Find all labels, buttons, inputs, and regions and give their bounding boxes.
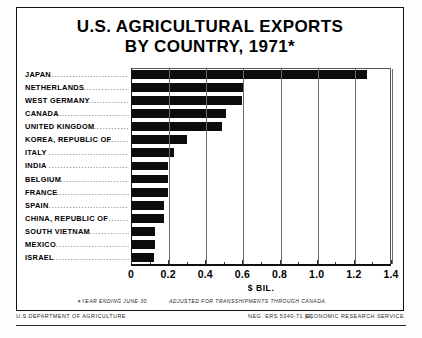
bar-track [131, 225, 391, 238]
bar [131, 109, 226, 118]
leader-dots: ........................................ [49, 199, 129, 212]
bar-row: SOUTH VIETNAM...........................… [17, 225, 403, 238]
x-axis-tick-label: 0.4 [198, 268, 213, 280]
bar-row: MEXICO..................................… [17, 238, 403, 251]
bar-track [131, 238, 391, 251]
bar-track [131, 199, 391, 212]
bar-track [131, 173, 391, 186]
leader-dots: ........................................ [49, 146, 129, 159]
bar-row: WEST GERMANY............................… [17, 94, 403, 107]
bar-row: CANADA..................................… [17, 107, 403, 120]
x-axis-minor-tick [261, 262, 262, 265]
bar-track [131, 212, 391, 225]
sheet-baseline-rule [16, 325, 406, 326]
bar-row: SPAIN...................................… [17, 199, 403, 212]
bar [131, 253, 154, 262]
leader-dots: ........................................ [53, 251, 129, 264]
bar-track [131, 94, 391, 107]
x-axis-tick [391, 260, 392, 264]
leader-dots: ........................................ [53, 238, 129, 251]
bar [131, 201, 164, 210]
leader-dots: ........................................ [49, 68, 129, 81]
credit-service: ECONOMIC RESEARCH SERVICE [305, 313, 404, 319]
x-axis-tick-label: 0.2 [161, 268, 176, 280]
leader-dots: ........................................ [57, 173, 129, 186]
footnote-2: ADJUSTED FOR TRANSSHIPMENTS THROUGH CANA… [169, 298, 327, 304]
bar [131, 83, 244, 92]
credit-negative-number: NEG. ERS 5340-71 (9) [248, 313, 313, 319]
x-axis-minor-tick [298, 262, 299, 265]
leader-dots: ........................................ [75, 81, 129, 94]
bar-row: KOREA, REPUBLIC OF......................… [17, 133, 403, 146]
bar-row: FRANCE..................................… [17, 186, 403, 199]
bar-track [131, 159, 391, 172]
bar-track [131, 133, 391, 146]
x-axis-minor-tick [335, 262, 336, 265]
x-axis-minor-tick [372, 262, 373, 265]
x-axis-minor-tick [187, 262, 188, 265]
leader-dots: ........................................ [53, 186, 129, 199]
leader-dots: ........................................ [88, 120, 129, 133]
x-axis-minor-tick [150, 262, 151, 265]
bar-row: INDIA...................................… [17, 159, 403, 172]
bar-row: UNITED KINGDOM..........................… [17, 120, 403, 133]
x-axis-tick [168, 260, 169, 264]
bar-track [131, 81, 391, 94]
page-title: U.S. AGRICULTURAL EXPORTS BY COUNTRY, 19… [17, 17, 403, 56]
leader-dots: ........................................ [79, 94, 129, 107]
title-line-1: U.S. AGRICULTURAL EXPORTS [77, 17, 344, 36]
bar [131, 70, 367, 79]
bar-track [131, 186, 391, 199]
leader-dots: ........................................ [105, 133, 129, 146]
bar [131, 175, 168, 184]
bar-track [131, 107, 391, 120]
bar [131, 240, 155, 249]
x-axis-tick-label: 1.4 [383, 268, 398, 280]
footnote-1: ✶YEAR ENDING JUNE 30. [77, 298, 149, 304]
chart-panel: U.S. AGRICULTURAL EXPORTS BY COUNTRY, 19… [16, 7, 404, 311]
chart-sheet: U.S. AGRICULTURAL EXPORTS BY COUNTRY, 19… [0, 0, 422, 338]
bar [131, 162, 168, 171]
x-axis-tick-label: 0 [128, 268, 134, 280]
x-axis-tick-label: 0.6 [235, 268, 250, 280]
bar [131, 148, 174, 157]
x-axis-tick [354, 260, 355, 264]
bar-row: NETHERLANDS.............................… [17, 81, 403, 94]
leader-dots: ........................................ [105, 212, 129, 225]
credit-agency: U.S.DEPARTMENT OF AGRICULTURE [16, 313, 126, 319]
bar-track [131, 146, 391, 159]
x-axis-tick [205, 260, 206, 264]
x-axis-tick-label: 0.8 [272, 268, 287, 280]
bar [131, 188, 168, 197]
x-axis-line [131, 264, 391, 266]
leader-dots: ........................................ [53, 107, 129, 120]
bar [131, 96, 242, 105]
x-axis-tick-label: 1.0 [309, 268, 324, 280]
x-axis-tick [317, 260, 318, 264]
bar-track [131, 68, 391, 81]
x-axis-tick-label: 1.2 [346, 268, 361, 280]
bar-row: JAPAN...................................… [17, 68, 403, 81]
leader-dots: ........................................ [49, 159, 129, 172]
leader-dots: ........................................ [84, 225, 129, 238]
bar-row: BELGIUM.................................… [17, 173, 403, 186]
x-axis-unit-label: $ BIL. [131, 283, 391, 293]
x-axis-tick [280, 260, 281, 264]
bar [131, 214, 164, 223]
bar-chart: JAPAN...................................… [17, 68, 403, 264]
credit-line: U.S.DEPARTMENT OF AGRICULTURE NEG. ERS 5… [16, 313, 406, 325]
bar-track [131, 120, 391, 133]
title-line-2: BY COUNTRY, 1971* [17, 37, 403, 57]
x-axis-tick [131, 260, 132, 264]
bar-row: ITALY...................................… [17, 146, 403, 159]
bar [131, 122, 222, 131]
bar-row: CHINA, REPUBLIC OF......................… [17, 212, 403, 225]
bar [131, 227, 155, 236]
footnote-1-text: YEAR ENDING JUNE 30. [81, 298, 148, 304]
x-axis-minor-tick [224, 262, 225, 265]
bar [131, 135, 187, 144]
x-axis-tick [242, 260, 243, 264]
bar-row: ISRAEL..................................… [17, 251, 403, 264]
